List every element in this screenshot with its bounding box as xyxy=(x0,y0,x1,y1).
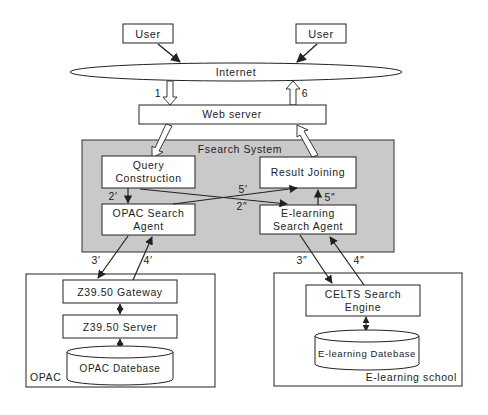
z3950-server-label: Z39.50 Server xyxy=(83,321,157,333)
opac-database-node: OPAC Datebase xyxy=(67,346,173,385)
elearning-school-label: E-learning school xyxy=(366,371,457,383)
opac-search-agent-label-line1: OPAC Search xyxy=(113,207,185,219)
hollow-arrow-6 xyxy=(286,81,300,105)
user-node-left: User xyxy=(123,24,173,43)
user-left-label: User xyxy=(135,28,161,40)
internet-node: Internet xyxy=(70,63,402,81)
edge-label-6: 6 xyxy=(302,87,308,99)
user-right-arrow xyxy=(297,44,317,62)
architecture-diagram: User User Internet 1 6 Web server Fsearc… xyxy=(0,0,488,415)
celts-search-engine-label-line1: CELTS Search xyxy=(325,288,401,300)
edge-label-2prime: 2′ xyxy=(108,190,117,202)
elearning-search-agent-label-line1: E-learning xyxy=(281,207,335,219)
z3950-gateway-label: Z39.50 Gateway xyxy=(77,286,163,298)
z3950-server-node: Z39.50 Server xyxy=(63,315,177,338)
opac-database-label: OPAC Datebase xyxy=(80,363,161,374)
edge-label-4doubleprime: 4″ xyxy=(354,254,365,266)
query-construction-label-line2: Construction xyxy=(115,172,181,184)
query-construction-label-line1: Query xyxy=(133,159,165,171)
edge-label-5doubleprime: 5″ xyxy=(325,191,336,203)
fsearch-system-label: Fsearch System xyxy=(198,143,282,155)
celts-search-engine-label-line2: Engine xyxy=(345,301,381,313)
z3950-gateway-node: Z39.50 Gateway xyxy=(63,280,177,303)
edge-label-1: 1 xyxy=(155,87,161,99)
web-server-label: Web server xyxy=(202,108,262,120)
web-server-node: Web server xyxy=(139,105,326,124)
elearning-search-agent-label-line2: Search Agent xyxy=(273,220,343,232)
celts-search-engine-node: CELTS Search Engine xyxy=(306,285,420,316)
result-joining-label: Result Joining xyxy=(271,166,345,178)
edge-label-3doubleprime: 3″ xyxy=(297,254,308,266)
hollow-arrow-1 xyxy=(163,81,177,105)
user-left-arrow xyxy=(158,44,180,62)
edge-label-4prime: 4′ xyxy=(143,254,152,266)
opac-search-agent-label-line2: Agent xyxy=(133,220,163,232)
result-joining-node: Result Joining xyxy=(260,157,356,188)
query-construction-node: Query Construction xyxy=(102,156,195,188)
elearning-search-agent-node: E-learning Search Agent xyxy=(260,205,356,234)
internet-label: Internet xyxy=(216,66,256,78)
user-right-label: User xyxy=(308,28,334,40)
edge-label-3prime: 3′ xyxy=(91,254,100,266)
elearning-database-node: E-learning Datebase xyxy=(315,330,419,370)
opac-search-agent-node: OPAC Search Agent xyxy=(102,204,195,235)
user-node-right: User xyxy=(296,24,346,43)
opac-group-label: OPAC xyxy=(30,371,61,383)
edge-label-2doubleprime: 2″ xyxy=(237,200,248,212)
elearning-database-label: E-learning Datebase xyxy=(318,348,416,359)
edge-label-5prime: 5′ xyxy=(238,183,247,195)
